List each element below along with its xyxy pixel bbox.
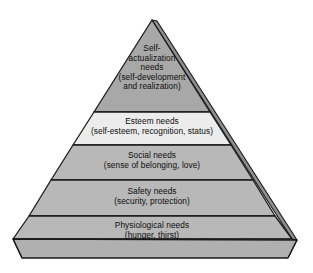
pyramid-tier-physiological[interactable]: [13, 216, 292, 239]
figure-canvas: Self- actualization needs (self-developm…: [0, 0, 313, 273]
pyramid-base-slab-front: [13, 239, 297, 258]
pyramid-tier-self-actualization[interactable]: [94, 20, 210, 112]
pyramid-tier-safety[interactable]: [29, 180, 275, 216]
pyramid-diagram: [0, 0, 313, 273]
pyramid-tier-social[interactable]: [51, 145, 253, 180]
pyramid-tier-esteem[interactable]: [73, 112, 231, 145]
